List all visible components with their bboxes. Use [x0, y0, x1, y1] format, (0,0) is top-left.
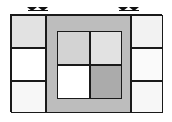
inner-cell-top-left — [57, 31, 90, 65]
marker-baseline — [119, 10, 139, 11]
right-cell-bottom — [131, 81, 163, 113]
center-block — [46, 15, 131, 113]
inner-cell-top-right — [90, 31, 122, 65]
diagram-title: Partitioned Rectangle Layout — [0, 0, 1, 1]
right-cell-top — [131, 15, 163, 48]
inner-cell-bottom-right — [90, 65, 122, 99]
marker-baseline — [28, 10, 48, 11]
outer-rectangle — [10, 14, 162, 112]
diagram-canvas: Partitioned Rectangle Layout — [0, 0, 172, 122]
left-cell-middle — [11, 48, 46, 81]
left-cell-bottom — [11, 81, 46, 113]
inner-cell-bottom-left — [57, 65, 90, 99]
right-cell-middle — [131, 48, 163, 81]
left-cell-top — [11, 15, 46, 48]
